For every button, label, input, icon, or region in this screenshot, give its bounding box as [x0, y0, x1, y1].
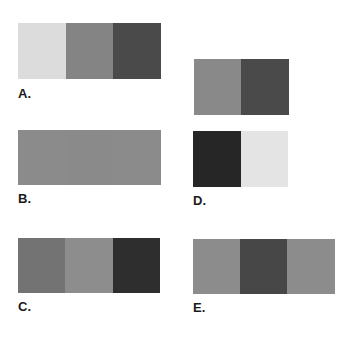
figure-a-swatch-1	[18, 23, 66, 79]
figure-d-label: D.	[193, 193, 206, 208]
figure-e-panel	[193, 239, 335, 294]
figure-b-swatch-2	[66, 130, 113, 185]
figure-c-swatch-2	[65, 238, 113, 293]
figure-d-bottom-panel	[193, 131, 288, 187]
figure-d-top-panel	[194, 59, 289, 115]
figure-e-swatch-2	[240, 239, 287, 294]
figure-b-swatch-1	[18, 130, 66, 185]
figure-d-bottom-swatch-1	[193, 131, 241, 187]
figure-d-bottom-swatch-2	[241, 131, 288, 187]
figure-e-label: E.	[193, 300, 205, 315]
figure-c-label: C.	[18, 299, 31, 314]
figure-e-swatch-1	[193, 239, 240, 294]
figure-b-panel	[18, 130, 161, 185]
figure-c-swatch-1	[18, 238, 65, 293]
figure-a-swatch-3	[113, 23, 161, 79]
figure-a-label: A.	[18, 86, 31, 101]
figure-a-panel	[18, 23, 161, 79]
figure-d-top-swatch-1	[194, 59, 241, 115]
figure-c-swatch-3	[113, 238, 160, 293]
figure-e-swatch-3	[287, 239, 335, 294]
figure-a-swatch-2	[66, 23, 113, 79]
figure-b-swatch-3	[113, 130, 161, 185]
figure-c-panel	[18, 238, 160, 293]
figure-b-label: B.	[18, 191, 31, 206]
figure-d-top-swatch-2	[241, 59, 289, 115]
